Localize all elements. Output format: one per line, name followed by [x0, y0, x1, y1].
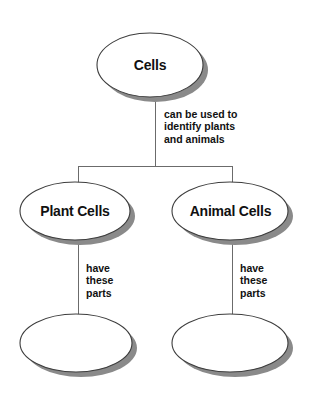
- edge-label-animal-to-parts: have these parts: [240, 262, 267, 299]
- edge-label-root-to-children: can be used to identify plants and anima…: [164, 108, 238, 145]
- node-plant-cells[interactable]: [20, 182, 130, 240]
- diagram-canvas: [0, 0, 311, 395]
- edge-label-line: have: [86, 262, 113, 274]
- node-group: [20, 33, 288, 372]
- concept-map-diagram: Cells Plant Cells Animal Cells can be us…: [0, 0, 311, 395]
- node-root[interactable]: [97, 33, 203, 97]
- node-animal-parts[interactable]: [172, 314, 288, 372]
- edge-label-line: these: [86, 274, 113, 286]
- node-plant-parts[interactable]: [20, 314, 132, 372]
- edge-label-line: can be used to: [164, 108, 238, 120]
- edge-label-line: parts: [240, 287, 267, 299]
- edge-label-line: identify plants: [164, 120, 238, 132]
- edge-label-line: have: [240, 262, 267, 274]
- edge-label-line: parts: [86, 287, 113, 299]
- edge-label-line: and animals: [164, 133, 238, 145]
- node-animal-cells[interactable]: [172, 182, 288, 240]
- edge-label-plant-to-parts: have these parts: [86, 262, 113, 299]
- edge-label-line: these: [240, 274, 267, 286]
